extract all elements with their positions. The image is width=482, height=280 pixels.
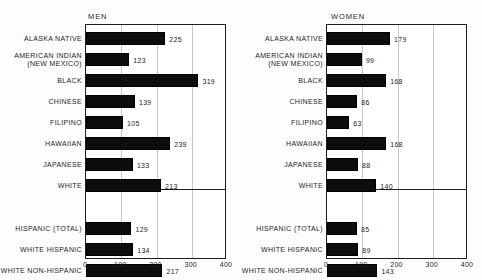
x-tick-label: 200 [390, 261, 403, 268]
bar-row: CHINESE139 [86, 94, 227, 109]
bar-row-label: WHITE NON-HISPANIC [242, 266, 323, 275]
bar [327, 116, 349, 129]
bar-value-label: 63 [353, 119, 361, 126]
bar-row-label: CHINESE [289, 97, 323, 106]
bar [86, 116, 123, 129]
bar-row: HAWAIIAN239 [86, 136, 227, 151]
plot-frame-women: ALASKA NATIVE179AMERICAN INDIAN(NEW MEXI… [326, 24, 467, 259]
bar [86, 243, 133, 256]
bar-value-label: 89 [362, 246, 370, 253]
bar [327, 53, 362, 66]
bar-row: HAWAIIAN168 [327, 136, 468, 151]
bar [327, 74, 386, 87]
bar-value-label: 85 [361, 225, 369, 232]
bar-row: JAPANESE133 [86, 157, 227, 172]
bar-value-label: 179 [394, 35, 407, 42]
x-tick-label: 0 [324, 261, 328, 268]
bar-value-label: 99 [366, 56, 374, 63]
bar-row-label: WHITE NON-HISPANIC [1, 266, 82, 275]
bar-row-label: AMERICAN INDIAN(NEW MEXICO) [0, 51, 82, 68]
bar [86, 32, 165, 45]
x-tick-label: 0 [83, 261, 87, 268]
bar-value-label: 88 [362, 161, 370, 168]
bar-row: ALASKA NATIVE179 [327, 31, 468, 46]
bar-row: WHITE HISPANIC89 [327, 242, 468, 257]
bar-value-label: 239 [174, 140, 187, 147]
bar [327, 95, 357, 108]
bar-row-label: AMERICAN INDIAN(NEW MEXICO) [237, 51, 323, 68]
bar [86, 53, 129, 66]
bar [327, 137, 386, 150]
x-tick-label: 300 [184, 261, 197, 268]
bar-row-label: CHINESE [48, 97, 82, 106]
bar [327, 158, 358, 171]
bar-row-label: BLACK [298, 76, 323, 85]
bar-value-label: 139 [139, 98, 152, 105]
bar-row-label: ALASKA NATIVE [24, 34, 82, 43]
bar-row-label: HISPANIC (TOTAL) [256, 224, 323, 233]
bar-row: CHINESE86 [327, 94, 468, 109]
bar-row: FILIPINO63 [327, 115, 468, 130]
x-tick-label: 300 [425, 261, 438, 268]
x-tick-label: 200 [149, 261, 162, 268]
bar-value-label: 140 [380, 182, 393, 189]
bar-row-label: HAWAIIAN [286, 139, 323, 148]
bar-value-label: 105 [127, 119, 140, 126]
panel-women: WOMEN ALASKA NATIVE179AMERICAN INDIAN(NE… [241, 0, 482, 280]
bar-row: WHITE213 [86, 178, 227, 193]
bar-value-label: 168 [390, 77, 403, 84]
bar [327, 243, 358, 256]
bar-row-label: HAWAIIAN [45, 139, 82, 148]
bar-row-label: WHITE HISPANIC [261, 245, 323, 254]
bar-value-label: 225 [169, 35, 182, 42]
bar [86, 222, 131, 235]
bar-value-label: 133 [137, 161, 150, 168]
chart-page: MEN ALASKA NATIVE225AMERICAN INDIAN(NEW … [0, 0, 482, 280]
plot-frame-men: ALASKA NATIVE225AMERICAN INDIAN(NEW MEXI… [85, 24, 226, 259]
bar-row-label: WHITE [299, 181, 323, 190]
bar-row: HISPANIC (TOTAL)129 [86, 221, 227, 236]
x-tick-label: 100 [355, 261, 368, 268]
bar-row: ALASKA NATIVE225 [86, 31, 227, 46]
bar [86, 74, 198, 87]
x-tick-label: 400 [220, 261, 233, 268]
bar [327, 179, 376, 192]
bar-row: JAPANESE88 [327, 157, 468, 172]
bar-value-label: 123 [133, 56, 146, 63]
bar [327, 32, 390, 45]
bar-value-label: 319 [202, 77, 215, 84]
bar-value-label: 213 [165, 182, 178, 189]
bar-value-label: 168 [390, 140, 403, 147]
bar-row: BLACK319 [86, 73, 227, 88]
bar-row: AMERICAN INDIAN(NEW MEXICO)123 [86, 52, 227, 67]
bar-row-label: JAPANESE [43, 160, 82, 169]
bar-row-label: WHITE [58, 181, 82, 190]
x-axis-women: 0100200300400 [326, 261, 467, 275]
panel-title-women: WOMEN [331, 12, 365, 21]
x-axis-men: 0100200300400 [85, 261, 226, 275]
bar-row: WHITE140 [327, 178, 468, 193]
bar-row-label: JAPANESE [284, 160, 323, 169]
bar-row-label: BLACK [57, 76, 82, 85]
bar-row-label: WHITE HISPANIC [20, 245, 82, 254]
bar [86, 137, 170, 150]
bar [327, 222, 357, 235]
bar-row: FILIPINO105 [86, 115, 227, 130]
panel-men: MEN ALASKA NATIVE225AMERICAN INDIAN(NEW … [0, 0, 241, 280]
bar-row-label: HISPANIC (TOTAL) [15, 224, 82, 233]
x-tick-label: 400 [461, 261, 474, 268]
bar [86, 95, 135, 108]
bar [86, 179, 161, 192]
bar-value-label: 86 [361, 98, 369, 105]
bar-row: HISPANIC (TOTAL)85 [327, 221, 468, 236]
bar-row: WHITE HISPANIC134 [86, 242, 227, 257]
bar-row-label: FILIPINO [291, 118, 323, 127]
bar-row-label: FILIPINO [50, 118, 82, 127]
bar-row: AMERICAN INDIAN(NEW MEXICO)99 [327, 52, 468, 67]
bar-row: BLACK168 [327, 73, 468, 88]
x-tick-label: 100 [114, 261, 127, 268]
bar-value-label: 129 [135, 225, 148, 232]
panel-title-men: MEN [88, 12, 107, 21]
bar-row-label: ALASKA NATIVE [265, 34, 323, 43]
bar [86, 158, 133, 171]
